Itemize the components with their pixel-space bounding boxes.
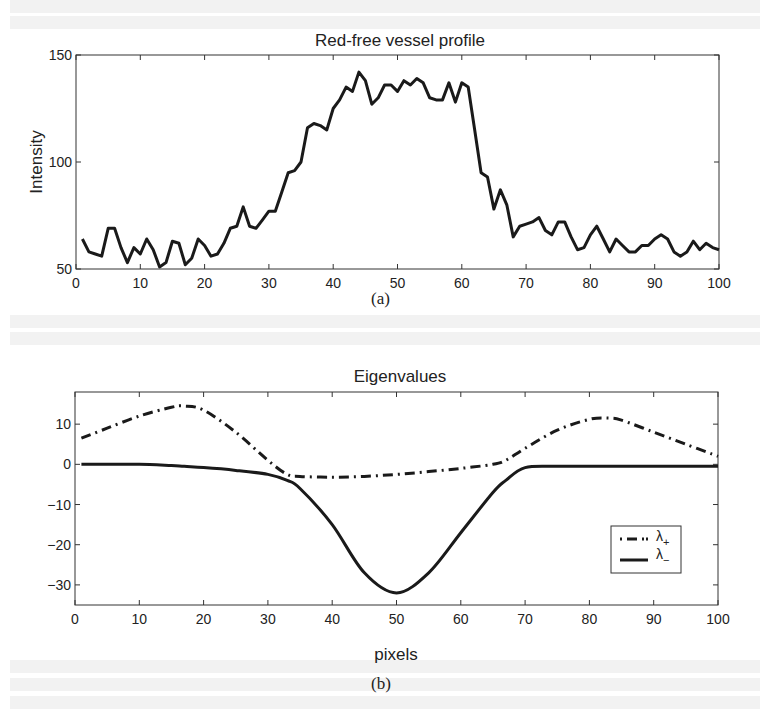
svg-text:60: 60 (453, 611, 469, 627)
svg-text:70: 70 (517, 611, 533, 627)
chart-b: 0102030405060708090100−30−20−10010 pixel… (0, 0, 760, 711)
svg-text:90: 90 (646, 611, 662, 627)
svg-text:0: 0 (71, 611, 79, 627)
svg-text:−30: −30 (47, 577, 71, 593)
svg-text:50: 50 (389, 611, 405, 627)
svg-text:40: 40 (324, 611, 340, 627)
svg-text:0: 0 (63, 456, 71, 472)
svg-text:80: 80 (582, 611, 598, 627)
chart-b-tick-labels: 0102030405060708090100−30−20−10010 (47, 416, 730, 627)
svg-text:30: 30 (260, 611, 276, 627)
caption-b: (b) (371, 674, 391, 694)
chart-b-legend: λ+ λ− (611, 526, 681, 573)
svg-text:10: 10 (55, 416, 71, 432)
svg-text:20: 20 (196, 611, 212, 627)
chart-b-xlabel: pixels (374, 645, 417, 664)
svg-text:−20: −20 (47, 537, 71, 553)
svg-text:−10: −10 (47, 497, 71, 513)
svg-text:100: 100 (706, 611, 730, 627)
svg-text:10: 10 (132, 611, 148, 627)
